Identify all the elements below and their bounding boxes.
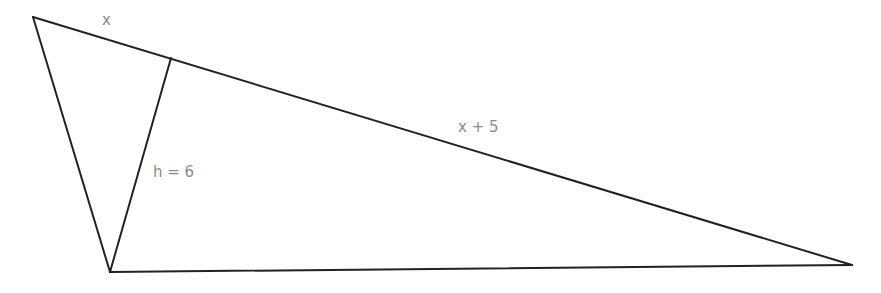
triangle-figure [0, 0, 881, 293]
label-segment-x-plus-5: x + 5 [458, 120, 499, 135]
label-height: h = 6 [153, 165, 194, 180]
triangle-diagram: x x + 5 h = 6 [0, 0, 881, 293]
side-bottom-to-right [110, 265, 852, 272]
side-top-left-to-right [33, 17, 852, 265]
label-segment-x: x [102, 13, 111, 28]
side-top-left-to-bottom [33, 17, 110, 272]
